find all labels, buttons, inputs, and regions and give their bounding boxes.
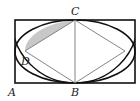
segment-c-right xyxy=(75,20,125,51)
label-b: B xyxy=(70,86,79,99)
label-d: D xyxy=(20,55,30,68)
geometry-figure: C D A B xyxy=(0,0,140,101)
label-c: C xyxy=(71,5,80,18)
label-a: A xyxy=(7,86,16,99)
segment-cd xyxy=(25,20,75,51)
